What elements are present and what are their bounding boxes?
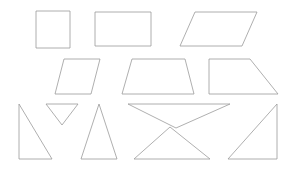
shape-inverted-triangle-small: inverted-triangle-small [46, 104, 78, 125]
figure-canvas: squarerectangleparallelogramparallelogra… [0, 0, 295, 169]
shape-parallelogram: parallelogram [180, 12, 257, 46]
shape-rectangle: rectangle [95, 12, 151, 46]
shapes-group: squarerectangleparallelogramparallelogra… [19, 11, 278, 159]
shape-inverted-triangle-wide: inverted-triangle-wide [128, 104, 230, 128]
shape-right-triangle-right: right-triangle-right [228, 104, 277, 159]
shape-isosceles-triangle: isosceles-triangle [81, 104, 117, 159]
shape-parallelogram-slanted: parallelogram-slanted [55, 59, 100, 94]
shape-square: square [36, 11, 70, 48]
shapes-diagram: squarerectangleparallelogramparallelogra… [0, 0, 295, 169]
shape-upright-triangle-wide: upright-triangle-wide [134, 127, 210, 159]
shape-right-triangle-left: right-triangle-left [19, 104, 52, 159]
shape-trapezoid-right: trapezoid-right [209, 59, 278, 94]
shape-trapezoid-isosceles: trapezoid-isosceles [122, 59, 194, 94]
